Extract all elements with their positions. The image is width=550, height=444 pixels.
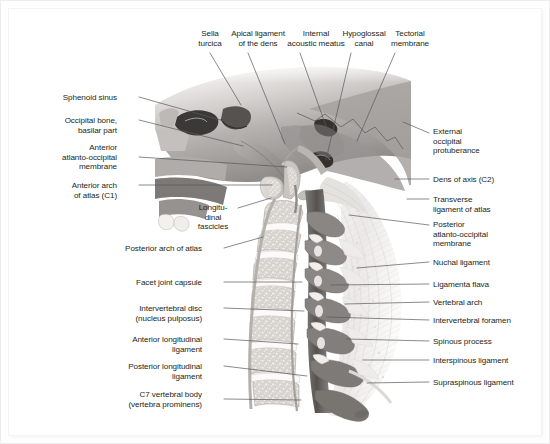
label-posterior-longitudinal-ligament: Posterior longitudinal ligament bbox=[128, 362, 202, 381]
figure-frame: Sella turcicaApical ligament of the dens… bbox=[9, 9, 541, 435]
label-intervertebral-foramen: Intervertebral foramen bbox=[433, 316, 511, 326]
label-facet-joint-capsule: Facet joint capsule bbox=[136, 278, 202, 288]
longitudinal-fascicles bbox=[295, 185, 297, 213]
label-anterior-longitudinal-ligament: Anterior longitudinal ligament bbox=[132, 335, 202, 354]
label-dens-of-axis-c2: Dens of axis (C2) bbox=[433, 175, 494, 185]
label-intervertebral-disc-nucleus-pulposus: Intervertebral disc (nucleus pulposus) bbox=[136, 304, 203, 323]
label-tectorial-membrane: Tectorial membrane bbox=[340, 29, 480, 48]
figure-page: Sella turcicaApical ligament of the dens… bbox=[0, 0, 550, 444]
label-interspinous-ligament: Interspinous ligament bbox=[433, 356, 508, 366]
label-supraspinous-ligament: Supraspinous ligament bbox=[433, 378, 514, 388]
label-vertebral-arch: Vertebral arch bbox=[433, 298, 482, 308]
label-c7-vertebral-body-vertebra-prominens: C7 vertebral body (vertebra prominens) bbox=[128, 390, 202, 409]
label-transverse-ligament-of-atlas: Transverse ligament of atlas bbox=[433, 195, 491, 214]
label-sphenoid-sinus: Sphenoid sinus bbox=[63, 93, 117, 103]
label-ligamenta-flava: Ligamenta flava bbox=[433, 280, 489, 290]
label-anterior-arch-of-atlas-c1: Anterior arch of atlas (C1) bbox=[72, 181, 117, 200]
label-occipital-bone-basilar-part: Occipital bone, basilar part bbox=[65, 116, 117, 135]
label-posterior-atlanto-occipital-membrane: Posterior atlanto-occipital membrane bbox=[433, 220, 488, 249]
label-spinous-process: Spinous process bbox=[433, 337, 492, 347]
label-nuchal-ligament: Nuchal ligament bbox=[433, 258, 490, 268]
label-posterior-arch-of-atlas: Posterior arch of atlas bbox=[125, 244, 202, 254]
label-external-occipital-protuberance: External occipital protuberance bbox=[433, 127, 480, 156]
label-longitudinal-fascicles: Longitu- dinal fascicles bbox=[143, 203, 283, 232]
label-anterior-atlanto-occipital-membrane: Anterior atlanto-occipital membrane bbox=[62, 143, 117, 172]
